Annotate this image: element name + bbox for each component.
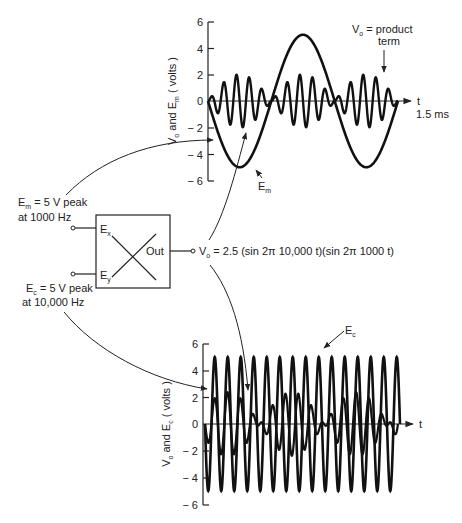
- em-input-label: Em = 5 V peak: [18, 196, 88, 210]
- input-x-terminal: [71, 226, 75, 230]
- top-tick-neg6: − 6: [187, 175, 203, 187]
- top-chart: 6 4 2 0 − 2 − 4 − 6 Vo and Em ( volts ) …: [166, 16, 450, 194]
- bottom-tick-2: 2: [192, 392, 198, 404]
- bottom-tick-0: 0: [192, 418, 198, 430]
- bottom-tick-6: 6: [192, 338, 198, 350]
- top-y-label: Vo and Em ( volts ): [166, 57, 180, 145]
- input-y-terminal: [71, 272, 75, 276]
- top-tick-2: 2: [197, 69, 203, 81]
- diagram-canvas: 6 4 2 0 − 2 − 4 − 6 Vo and Em ( volts ) …: [0, 0, 462, 523]
- output-label: Out: [146, 245, 164, 257]
- bottom-tick-4: 4: [192, 365, 198, 377]
- ec-to-bottom-chart-arrow: [64, 312, 207, 389]
- bottom-tick-neg2: − 2: [182, 445, 198, 457]
- output-terminal: [191, 249, 195, 253]
- top-vo-annotation-line2: term: [378, 35, 400, 47]
- bottom-ec-annotation: Ec: [345, 324, 356, 338]
- input-y-label: Ey: [100, 269, 111, 284]
- top-x-label: t: [417, 95, 420, 107]
- top-tick-6: 6: [197, 16, 203, 28]
- input-x-label: Ex: [100, 223, 111, 237]
- ec-input-label: Ec = 5 V peak: [26, 282, 93, 296]
- top-em-annotation: Em: [258, 180, 271, 194]
- bottom-ec-arrow: [324, 331, 344, 348]
- output-equation: Vo = 2.5 (sin 2π 10,000 t)(sin 2π 1000 t…: [199, 245, 394, 259]
- bottom-tick-neg4: − 4: [182, 472, 198, 484]
- vo-to-top-chart-arrow: [209, 133, 246, 240]
- multiplier-x-symbol-a: [112, 236, 156, 280]
- top-tick-neg4: − 4: [187, 149, 203, 161]
- top-tick-0: 0: [197, 95, 203, 107]
- em-input-freq: at 1000 Hz: [18, 211, 71, 223]
- bottom-chart: 6 4 2 0 − 2 − 4 − 6 Vo and Ec ( volts ) …: [160, 324, 422, 511]
- bottom-x-label: t: [419, 418, 422, 430]
- bottom-tick-neg6: − 6: [182, 499, 198, 511]
- top-em-arrow: [256, 170, 262, 178]
- bottom-y-label: Vo and Ec ( volts ): [160, 381, 174, 467]
- multiplier-block: Ex Ey Out: [71, 215, 195, 288]
- top-tick-neg2: − 2: [187, 122, 203, 134]
- top-tick-4: 4: [197, 43, 203, 55]
- top-x-end-label: 1.5 ms: [416, 108, 450, 120]
- ec-input-freq: at 10,000 Hz: [22, 296, 84, 308]
